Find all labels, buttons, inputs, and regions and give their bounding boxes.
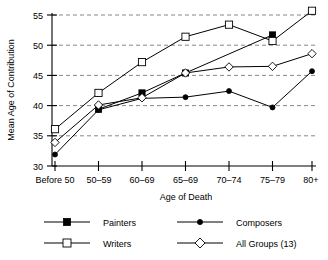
legend-label-all-groups: All Groups (13) [236, 239, 297, 249]
series-line-composers [55, 71, 312, 154]
x-tick-label-6: 80+ [303, 175, 318, 185]
legend-marker-filled-square [64, 219, 71, 226]
legend-label-painters: Painters [103, 218, 137, 228]
datapoint-composers-4 [227, 89, 232, 94]
legend-marker-open-diamond [195, 238, 205, 248]
x-tick-label-0: Before 50 [35, 175, 74, 185]
y-tick-label-40: 40 [33, 101, 43, 111]
legend-item-painters[interactable]: Painters [44, 218, 137, 228]
x-tick-label-2: 60–69 [129, 175, 154, 185]
series-layer [51, 7, 316, 157]
legend-item-writers[interactable]: Writers [44, 239, 132, 249]
series-composers [53, 69, 315, 157]
x-tick-labels: Before 50 50–59 60–69 65–69 70–74 75–79 … [35, 175, 318, 185]
legend-marker-open-square [63, 239, 71, 247]
y-tick-label-55: 55 [33, 11, 43, 21]
y-tick-label-45: 45 [33, 71, 43, 81]
datapoint-writers-4 [225, 21, 232, 28]
x-axis-title: Age of Death [160, 192, 213, 202]
datapoint-all-groups-13-4 [225, 63, 233, 71]
legend: Painters Composers Writers All Groups (1… [44, 218, 297, 249]
datapoint-writers-0 [51, 126, 58, 133]
datapoint-writers-2 [138, 59, 145, 66]
y-tick-labels: 55 50 45 40 35 30 [33, 11, 43, 172]
y-tick-label-30: 30 [33, 162, 43, 172]
legend-item-all-groups[interactable]: All Groups (13) [177, 238, 297, 249]
datapoint-composers-6 [310, 69, 315, 74]
legend-label-composers: Composers [236, 218, 283, 228]
datapoint-writers-3 [182, 33, 189, 40]
datapoint-composers-5 [270, 105, 275, 110]
x-tick-label-4: 70–74 [216, 175, 241, 185]
legend-marker-filled-circle [197, 219, 202, 224]
datapoint-all-groups-13-6 [308, 49, 316, 57]
line-chart: 55 50 45 40 35 30 Before 50 50–59 60–69 … [0, 0, 328, 260]
datapoint-composers-0 [53, 152, 58, 157]
y-tick-label-50: 50 [33, 41, 43, 51]
legend-item-composers[interactable]: Composers [177, 218, 283, 228]
x-tick-label-5: 75–79 [260, 175, 285, 185]
chart-figure: 55 50 45 40 35 30 Before 50 50–59 60–69 … [0, 0, 328, 260]
datapoint-all-groups-13-5 [268, 62, 276, 70]
datapoint-writers-6 [308, 7, 315, 14]
y-axis-title: Mean Age of Contribution [6, 39, 16, 141]
x-tick-label-3: 65–69 [173, 175, 198, 185]
datapoint-writers-1 [95, 89, 102, 96]
legend-label-writers: Writers [103, 239, 132, 249]
x-tick-label-1: 50–59 [86, 175, 111, 185]
datapoint-writers-5 [269, 37, 276, 44]
y-tick-label-35: 35 [33, 131, 43, 141]
datapoint-composers-3 [183, 95, 188, 100]
